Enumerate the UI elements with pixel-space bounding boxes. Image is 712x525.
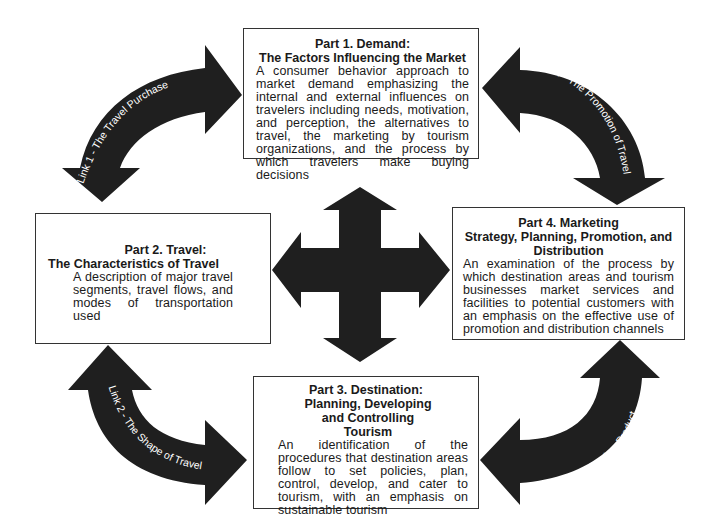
part1-title: Part 1. Demand:	[255, 37, 470, 51]
part4-description: An examination of the process by which d…	[463, 258, 674, 336]
part1-description: A consumer behavior approach to market d…	[255, 65, 470, 182]
link1-arrow-icon	[62, 45, 242, 202]
part2-subtitle: The Characteristics of Travel	[48, 257, 258, 271]
link2-arrow-icon	[68, 345, 247, 505]
part4-subtitle: Strategy, Planning, Promotion, and Distr…	[463, 230, 674, 258]
part2-title: Part 2. Travel:	[73, 243, 258, 257]
part1-demand-box: Part 1. Demand: The Factors Influencing …	[243, 28, 479, 159]
part4-marketing-box: Part 4. Marketing Strategy, Planning, Pr…	[452, 207, 685, 340]
part4-title: Part 4. Marketing	[463, 216, 674, 230]
part1-subtitle: The Factors Influencing the Market	[255, 51, 470, 65]
part3-title: Part 3. Destination:	[278, 383, 454, 397]
part3-subtitle: Planning, Developing and Controlling Tou…	[298, 397, 438, 439]
part2-description: A description of major travel segments, …	[73, 271, 233, 323]
part2-travel-box: Part 2. Travel: The Characteristics of T…	[35, 213, 271, 344]
link4-arrow-icon	[482, 47, 665, 205]
part3-description: An identification of the procedures that…	[278, 439, 468, 517]
part3-destination-box: Part 3. Destination: Planning, Developin…	[253, 376, 479, 509]
four-way-arrow-icon	[272, 187, 450, 362]
